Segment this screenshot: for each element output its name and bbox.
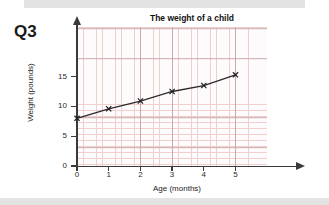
y-tick-10 [71,106,77,107]
x-tick-label-4: 4 [193,170,215,179]
grid-major-lines [77,27,267,166]
worksheet-page: Q3 The weight of a child Weight (pounds)… [0,0,329,205]
x-tick-label-3: 3 [161,170,183,179]
y-tick-label-10: 10 [45,101,67,110]
page-top-band [0,0,329,8]
y-tick-5 [71,136,77,137]
x-tick-label-0: 0 [66,170,88,179]
x-axis-arrowhead-icon [296,162,305,170]
y-tick-label-0: 0 [45,161,67,170]
y-tick-15 [71,76,77,77]
x-tick-label-5: 5 [225,170,247,179]
page-top-band-right-notch [305,0,329,8]
y-axis-title: Weight (pounds) [26,38,35,148]
x-tick-label-2: 2 [129,170,151,179]
chart-plot-area [77,27,267,166]
chart-title: The weight of a child [112,13,272,23]
page-top-band-left-notch [0,0,24,8]
y-tick-label-5: 5 [45,131,67,140]
x-axis-title: Age (months) [112,184,242,193]
y-tick-label-15: 15 [45,72,67,81]
y-axis-line [76,24,78,167]
page-bottom-band [0,198,329,205]
y-axis-arrowhead-icon [73,16,81,25]
x-tick-label-1: 1 [98,170,120,179]
